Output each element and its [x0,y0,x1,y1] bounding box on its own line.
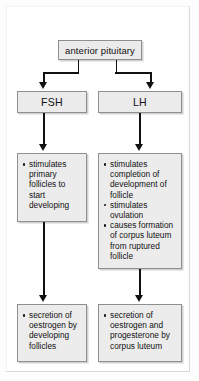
list-item: stimulates primary follicles to start de… [22,159,82,210]
node-lh-outcome: secretion of oestrogen and progesterone … [98,304,182,362]
list-item: secretion of oestrogen and progesterone … [103,310,177,351]
fsh-outcome-list: secretion of oestrogen by developing fol… [22,310,82,351]
connector-fsh-to-effects [43,113,45,146]
fsh-effects-list: stimulates primary follicles to start de… [22,159,82,210]
node-lh: LH [98,91,182,113]
arrowhead-to-lh [146,82,154,89]
connector-fsh-to-outcome [43,222,45,297]
connector-lh-to-effects [139,113,141,146]
node-anterior-pituitary-label: anterior pituitary [65,45,135,56]
node-anterior-pituitary: anterior pituitary [58,40,142,60]
lh-outcome-list: secretion of oestrogen and progesterone … [103,310,177,351]
diagram-canvas: anterior pituitary FSH LH stimulates pri… [0,0,199,381]
arrowhead-fsh-outcome [39,295,47,302]
arrowhead-fsh-effects [39,144,47,151]
list-item: stimulates ovulation [103,200,177,220]
node-fsh-outcome: secretion of oestrogen by developing fol… [17,304,87,362]
list-item: causes formation of corpus luteum from r… [103,220,177,261]
node-fsh: FSH [17,91,87,113]
list-item: stimulates completion of development of … [103,159,177,200]
lh-effects-list: stimulates completion of development of … [103,159,177,261]
arrowhead-lh-effects [135,144,143,151]
node-fsh-effects: stimulates primary follicles to start de… [17,153,87,222]
list-item: secretion of oestrogen by developing fol… [22,310,82,351]
connector-branch-left [43,72,79,74]
node-lh-label: LH [133,97,147,108]
node-fsh-label: FSH [41,97,63,108]
connector-lh-to-outcome [139,269,141,297]
arrowhead-to-fsh [39,82,47,89]
connector-branch-right [115,72,151,74]
arrowhead-lh-outcome [135,295,143,302]
node-lh-effects: stimulates completion of development of … [98,153,182,269]
